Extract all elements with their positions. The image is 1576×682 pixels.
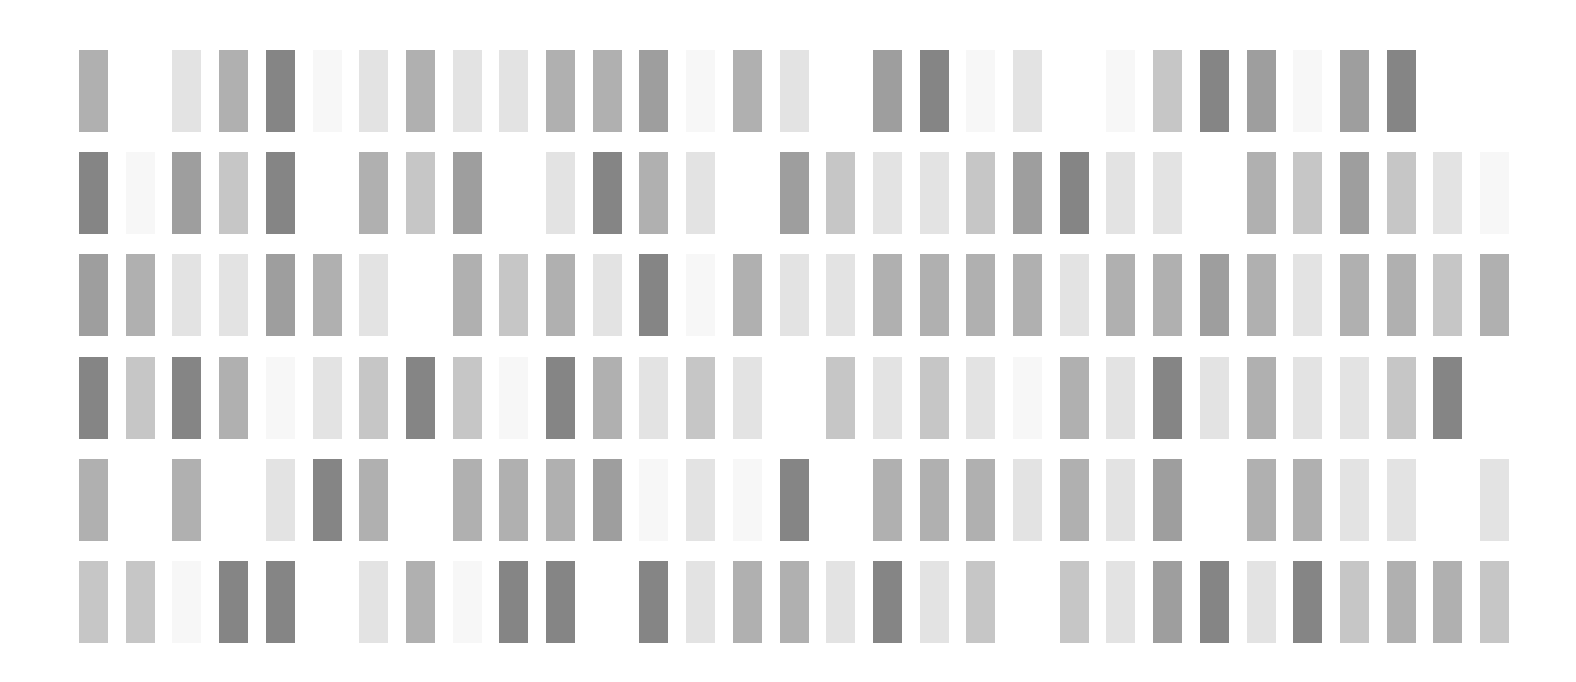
grid-tile — [873, 50, 902, 132]
grid-tile — [266, 561, 295, 643]
grid-tile — [499, 459, 528, 541]
grid-tile — [826, 357, 855, 439]
grid-tile — [172, 254, 201, 336]
grid-tile — [1013, 357, 1042, 439]
grid-tile — [359, 254, 388, 336]
grid-tile — [1013, 459, 1042, 541]
grid-tile — [172, 50, 201, 132]
grid-tile — [639, 254, 668, 336]
grid-tile — [733, 459, 762, 541]
grid-tile — [406, 357, 435, 439]
grid-tile — [1433, 357, 1462, 439]
grid-tile — [920, 459, 949, 541]
grid-tile — [1153, 254, 1182, 336]
grid-tile — [639, 459, 668, 541]
grid-tile — [79, 357, 108, 439]
grid-tile — [219, 561, 248, 643]
grid-tile — [1293, 152, 1322, 234]
grid-tile — [79, 50, 108, 132]
grid-tile — [873, 152, 902, 234]
grid-tile — [733, 561, 762, 643]
grid-tile — [1106, 152, 1135, 234]
grid-tile — [1106, 357, 1135, 439]
grid-tile — [1200, 561, 1229, 643]
grid-tile — [453, 50, 482, 132]
grid-tile — [686, 459, 715, 541]
grid-tile — [966, 152, 995, 234]
grid-tile — [826, 561, 855, 643]
grid-tile — [826, 152, 855, 234]
grid-tile — [126, 357, 155, 439]
grid-tile — [966, 50, 995, 132]
grid-tile — [1013, 254, 1042, 336]
grid-tile — [313, 357, 342, 439]
grid-tile — [780, 561, 809, 643]
grid-tile — [313, 459, 342, 541]
grid-tile — [219, 254, 248, 336]
grid-tile — [1013, 152, 1042, 234]
grid-tile — [1293, 254, 1322, 336]
grid-tile — [593, 152, 622, 234]
grid-tile — [126, 561, 155, 643]
grid-tile — [920, 152, 949, 234]
grid-tile — [546, 152, 575, 234]
grid-tile — [499, 254, 528, 336]
grid-tile — [1153, 357, 1182, 439]
grid-tile — [1387, 561, 1416, 643]
grid-tile — [1247, 152, 1276, 234]
grid-tile — [1340, 459, 1369, 541]
grid-tile — [920, 50, 949, 132]
grid-tile — [1480, 152, 1509, 234]
grid-tile — [1106, 50, 1135, 132]
grid-tile — [1060, 254, 1089, 336]
grid-tile — [219, 357, 248, 439]
grid-tile — [873, 254, 902, 336]
grid-tile — [873, 561, 902, 643]
grid-tile — [733, 254, 762, 336]
grid-tile — [1153, 50, 1182, 132]
grid-tile — [266, 50, 295, 132]
grid-tile — [966, 561, 995, 643]
grid-tile — [966, 254, 995, 336]
grid-tile — [1247, 561, 1276, 643]
grid-tile — [920, 357, 949, 439]
grid-tile — [686, 254, 715, 336]
grid-tile — [686, 50, 715, 132]
grid-tile — [873, 459, 902, 541]
grid-tile — [1293, 459, 1322, 541]
grid-tile — [1340, 357, 1369, 439]
grid-tile — [1340, 254, 1369, 336]
grid-tile — [1387, 50, 1416, 132]
grid-tile — [546, 254, 575, 336]
grid-tile — [266, 459, 295, 541]
grid-tile — [780, 459, 809, 541]
grid-tile — [359, 152, 388, 234]
grid-tile — [546, 50, 575, 132]
grid-tile — [499, 50, 528, 132]
grid-tile — [1200, 50, 1229, 132]
grid-tile — [499, 357, 528, 439]
grid-tile — [406, 50, 435, 132]
grid-tile — [1200, 254, 1229, 336]
grid-tile — [79, 561, 108, 643]
grid-tile — [1200, 357, 1229, 439]
tile-grid — [0, 0, 1576, 682]
grid-tile — [966, 459, 995, 541]
grid-tile — [1060, 152, 1089, 234]
grid-tile — [593, 357, 622, 439]
grid-tile — [686, 561, 715, 643]
grid-tile — [453, 357, 482, 439]
grid-tile — [593, 50, 622, 132]
grid-tile — [1387, 152, 1416, 234]
grid-tile — [313, 50, 342, 132]
grid-tile — [359, 50, 388, 132]
grid-tile — [172, 459, 201, 541]
grid-tile — [453, 152, 482, 234]
grid-tile — [266, 152, 295, 234]
grid-tile — [1247, 50, 1276, 132]
grid-tile — [546, 459, 575, 541]
grid-tile — [686, 152, 715, 234]
grid-tile — [126, 152, 155, 234]
grid-tile — [406, 152, 435, 234]
grid-tile — [826, 254, 855, 336]
